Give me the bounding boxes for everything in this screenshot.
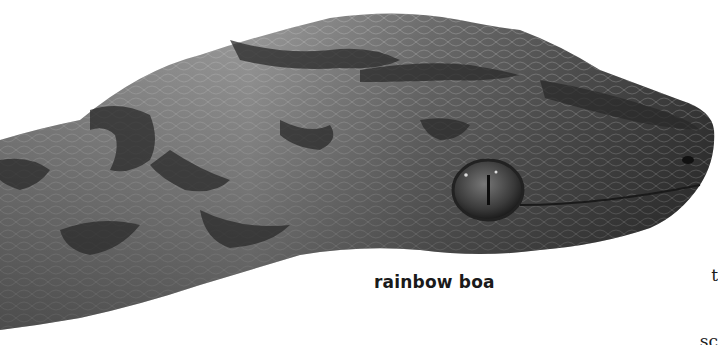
text-line: sc [650,330,718,345]
body-text-fragment: t sc The col the way [650,220,718,345]
rainbow-boa-photo [0,0,718,345]
text-line: t [650,264,718,286]
image-caption: rainbow boa [374,272,495,292]
